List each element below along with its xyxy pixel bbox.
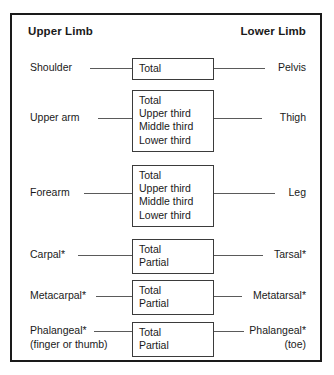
option-item: Lower third (139, 209, 213, 222)
option-item: Middle third (139, 120, 213, 133)
column-header-upper-limb: Upper Limb (28, 25, 93, 37)
row-label-right-main: Thigh (280, 111, 306, 123)
row-label-right: Thigh (280, 111, 306, 125)
option-item: Total (139, 243, 213, 256)
option-item: Partial (139, 339, 213, 352)
column-header-lower-limb: Lower Limb (240, 25, 306, 37)
row-label-left-main: Phalangeal* (30, 324, 87, 336)
connector-line-left (90, 68, 134, 69)
option-item: Total (139, 326, 213, 339)
row-label-left-sub: (finger or thumb) (30, 338, 108, 352)
option-item: Total (139, 284, 213, 297)
limb-amputation-level-diagram: Upper Limb Lower Limb Shoulder Pelvis To… (10, 13, 322, 362)
row-label-right: Pelvis (278, 61, 306, 75)
row-label-left: Shoulder (30, 61, 72, 75)
row-label-right-sub: (toe) (249, 338, 306, 352)
connector-line-left (96, 296, 134, 297)
option-item: Total (139, 169, 213, 182)
option-box: Total Upper third Middle third Lower thi… (132, 165, 214, 227)
option-box: Total Partial (132, 322, 214, 357)
row-label-left: Carpal* (30, 248, 65, 262)
connector-line-right (213, 118, 262, 119)
option-item: Partial (139, 297, 213, 310)
connector-line-right (213, 193, 275, 194)
connector-line-left (78, 255, 134, 256)
row-label-left: Metacarpal* (30, 289, 86, 303)
row-label-right-main: Leg (288, 186, 306, 198)
option-item: Lower third (139, 134, 213, 147)
option-item: Middle third (139, 195, 213, 208)
connector-line-right (213, 331, 244, 332)
row-label-left: Upper arm (30, 111, 80, 125)
connector-line-left (98, 118, 134, 119)
option-item: Upper third (139, 182, 213, 195)
row-label-left: Forearm (30, 186, 70, 200)
connector-line-right (213, 255, 263, 256)
option-item: Total (139, 94, 213, 107)
option-box: Total Partial (132, 280, 214, 315)
option-box: Total Partial (132, 239, 214, 274)
row-label-left-main: Forearm (30, 186, 70, 198)
option-item: Partial (139, 256, 213, 269)
row-label-left: Phalangeal* (finger or thumb) (30, 324, 108, 351)
connector-line-right (213, 68, 265, 69)
row-label-right: Leg (288, 186, 306, 200)
row-label-left-main: Metacarpal* (30, 289, 86, 301)
option-item: Total (139, 62, 213, 75)
row-label-right: Phalangeal* (toe) (249, 324, 306, 351)
connector-line-right (213, 296, 242, 297)
row-label-left-main: Shoulder (30, 61, 72, 73)
row-label-right-main: Pelvis (278, 61, 306, 73)
row-label-left-main: Upper arm (30, 111, 80, 123)
option-box: Total (132, 58, 214, 80)
connector-line-left (84, 193, 134, 194)
option-box: Total Upper third Middle third Lower thi… (132, 90, 214, 152)
row-label-right-main: Tarsal* (274, 248, 306, 260)
row-label-right-main: Phalangeal* (249, 324, 306, 336)
option-item: Upper third (139, 107, 213, 120)
row-label-right: Tarsal* (274, 248, 306, 262)
row-label-right-main: Metatarsal* (253, 289, 306, 301)
row-label-left-main: Carpal* (30, 248, 65, 260)
row-label-right: Metatarsal* (253, 289, 306, 303)
